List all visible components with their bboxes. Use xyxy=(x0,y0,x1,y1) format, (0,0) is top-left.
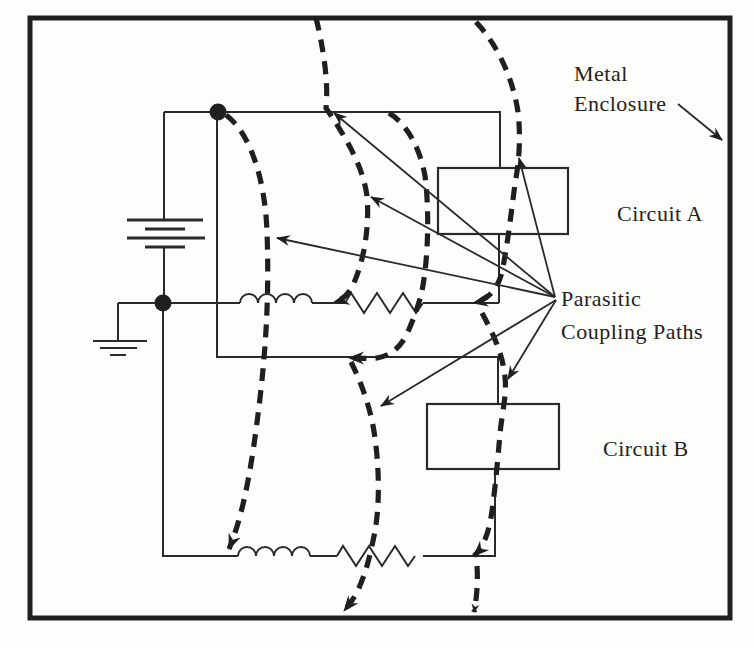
metal-enclosure-label-line2: Enclosure xyxy=(574,91,666,116)
parasitic-path-curve-6-tail xyxy=(474,566,477,612)
pointer-line-to-curve-5 xyxy=(381,300,556,406)
inductor-icon xyxy=(238,547,310,556)
circuit-b-box xyxy=(427,404,559,469)
pointer-line-to-curve-6 xyxy=(508,300,556,379)
parasitic-label-line2: Coupling Paths xyxy=(561,319,703,344)
battery-icon xyxy=(127,220,205,247)
figure-parasitic-coupling-diagram: Metal Enclosure Circuit A Circuit B Para… xyxy=(0,0,754,648)
pointer-line-to-curve-2-top xyxy=(334,113,555,297)
circuit-a-box xyxy=(438,168,568,234)
junction-dot-top xyxy=(210,104,227,121)
parasitic-path-curve-1 xyxy=(226,115,268,549)
resistor-icon xyxy=(337,546,415,566)
parasitic-label-line1: Parasitic xyxy=(561,286,641,311)
parasitic-path-curve-2 xyxy=(316,18,368,302)
circuit-b-label: Circuit B xyxy=(603,436,689,461)
pointer-line-to-curve-2-mid xyxy=(371,197,555,297)
metal-enclosure-label-line1: Metal xyxy=(574,61,628,86)
junction-dot-ground xyxy=(155,295,172,312)
parasitic-path-curves xyxy=(226,18,519,612)
parasitic-path-curve-6 xyxy=(474,313,505,556)
wire-circuit-b-return xyxy=(423,469,495,556)
wire-top-rail xyxy=(164,112,500,168)
pointer-line-to-curve-1 xyxy=(277,238,555,297)
pointer-line-to-curve-4 xyxy=(519,158,555,297)
diagram-canvas: Metal Enclosure Circuit A Circuit B Para… xyxy=(0,0,754,648)
parasitic-path-curve-3 xyxy=(349,113,428,358)
resistor-icon xyxy=(345,293,423,313)
parasitic-pointer-lines xyxy=(277,113,556,406)
wire-bottom-rail-left xyxy=(163,303,238,556)
circuit-a-label: Circuit A xyxy=(617,201,703,226)
parasitic-path-curve-5 xyxy=(344,362,378,611)
ground-icon xyxy=(93,341,147,355)
inductor-icon xyxy=(240,294,312,303)
metal-enclosure-arrow xyxy=(678,104,722,140)
